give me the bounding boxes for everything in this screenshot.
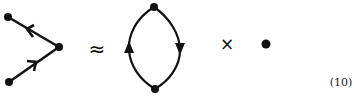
lower-propagator-line [9,47,59,82]
loop-arrows [124,3,185,93]
loop-left-arc [129,7,155,89]
loop-diagram [129,7,180,89]
approx-symbol: ≈ [89,37,106,61]
isolated-dot [262,40,271,49]
lhs-vertex-diagram [4,13,63,86]
loop-bottom-dot [151,85,159,93]
feynman-diagram-equation: ≈ × (10) [0,0,354,102]
node-dot-top-left [4,13,12,21]
arrow-up-triangle-icon [124,41,134,53]
arrow-down-triangle-icon [175,43,185,55]
loop-top-dot [150,3,158,11]
loop-right-arc [154,7,180,89]
times-symbol: × [220,34,234,54]
equation-number: (10) [330,76,353,89]
vertex-dot [55,43,63,51]
node-dot-bottom-left [5,78,13,86]
upper-propagator-line [8,17,59,47]
